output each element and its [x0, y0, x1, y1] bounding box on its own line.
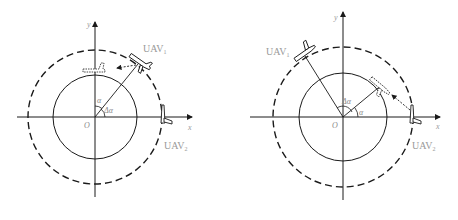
angle-alpha-arc [355, 108, 358, 117]
alpha-label: α [97, 96, 102, 105]
uav-1-target-plane [83, 63, 105, 72]
origin-label: O [332, 121, 338, 130]
alpha-label: α [359, 108, 364, 117]
x-axis-label: x [187, 123, 192, 132]
motion-arrow [117, 65, 136, 68]
left-panel: y x O α Δα UAV1 UAV2 [17, 20, 192, 197]
uav-1-plane [289, 38, 316, 62]
angle-alpha-arc [95, 106, 102, 109]
uav-1-label: UAV1 [266, 46, 289, 58]
x-axis-label: x [435, 122, 440, 131]
delta-alpha-label: Δα [103, 106, 114, 115]
uav-2-label: UAV2 [164, 140, 187, 152]
uav-2-label: UAV2 [412, 140, 435, 152]
y-axis-label: y [86, 20, 91, 29]
uav-1-plane [125, 50, 153, 76]
y-axis-label: y [333, 13, 338, 22]
delta-alpha-label: Δα [341, 97, 352, 106]
uav-1-label: UAV1 [143, 43, 166, 55]
uav-2-plane [161, 105, 172, 124]
origin-label: O [84, 121, 90, 130]
right-panel: y x O Δα α UAV1 UAV2 [250, 12, 440, 200]
uav-formation-diagram: y x O α Δα UAV1 UAV2 y x [0, 0, 458, 220]
motion-arrow [392, 95, 410, 110]
uav-2-plane [410, 105, 421, 124]
